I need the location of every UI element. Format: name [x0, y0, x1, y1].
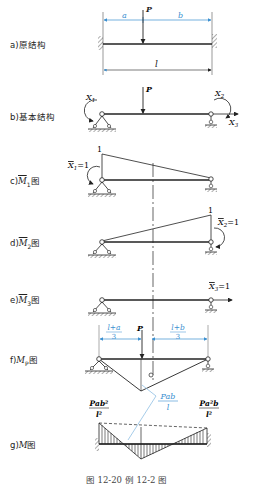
load-p-f: P: [136, 323, 144, 333]
right-end-moment-num: Pa²b: [199, 399, 219, 408]
unit-force-x2: X2=1: [217, 218, 239, 228]
panel-c-m1-diagram: [87, 154, 217, 380]
unknown-x3: X3: [228, 118, 239, 128]
unit-force-x1: X1=1: [67, 161, 89, 171]
dim-den-3-right: 3: [176, 333, 180, 341]
dim-l-plus-b: l+b: [171, 323, 185, 332]
load-p-b: P: [145, 84, 153, 94]
panel-g-m-diagram: [95, 423, 211, 459]
panel-f-mp-diagram: [85, 325, 214, 440]
dim-l-plus-a: l+a: [107, 323, 120, 332]
dim-l: l: [155, 59, 158, 69]
figure-caption: 图 12-20 例 12-2 图: [0, 473, 253, 485]
unit-force-x3: X3=1: [208, 282, 230, 292]
left-end-moment-den: l²: [96, 410, 103, 419]
dim-a: a: [122, 11, 127, 20]
panel-e-m3-diagram: [88, 298, 232, 316]
unknown-x1: X1: [85, 93, 95, 103]
left-end-moment-num: Pab²: [89, 399, 110, 408]
m2-value: 1: [208, 206, 213, 215]
right-end-moment-den: l²: [206, 410, 213, 419]
peak-moment-den: l: [167, 403, 170, 412]
m1-value: 1: [97, 145, 102, 154]
panel-d-m2-diagram: [88, 215, 225, 258]
peak-moment-num: Pab: [160, 392, 176, 401]
structural-diagram: a b P l P X1 X2 X3: [0, 0, 253, 492]
unknown-x2: X2: [214, 89, 225, 99]
dim-den-3-left: 3: [112, 333, 116, 341]
load-p-a: P: [145, 4, 153, 14]
dim-b: b: [178, 11, 183, 20]
